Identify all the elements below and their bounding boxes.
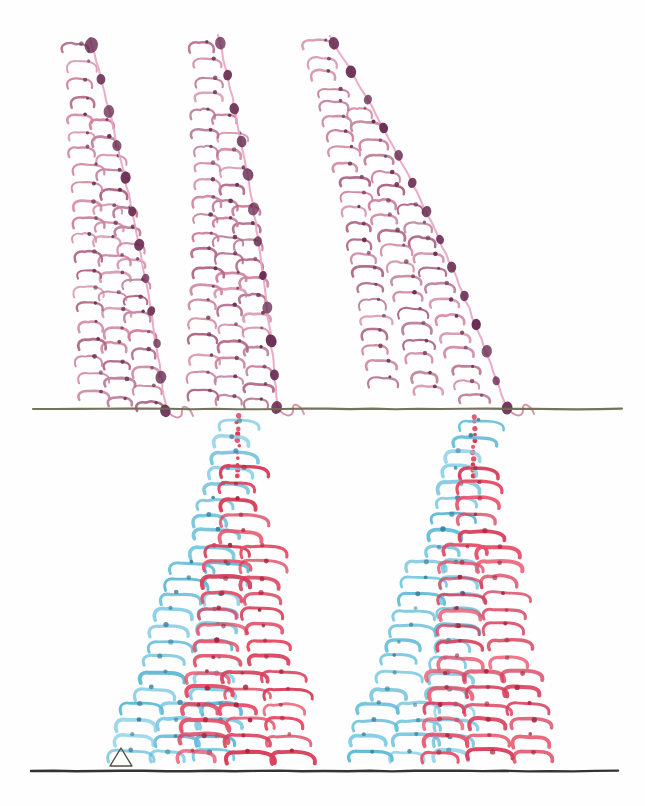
fan-branchlet-dot xyxy=(128,748,133,753)
branchlet-dot xyxy=(350,145,353,148)
stem-node-dot xyxy=(472,319,481,330)
shoot-branchlet xyxy=(311,70,335,81)
fan-branchlet-blue xyxy=(204,484,248,494)
shoot-branchlet xyxy=(75,356,102,367)
branchlet-dot xyxy=(374,283,377,286)
branchlet-dot xyxy=(394,182,399,187)
aerial-shoot xyxy=(62,36,193,418)
branchlet-dot xyxy=(207,298,210,301)
shoot-branchlet xyxy=(333,163,357,172)
fan-branchlet-red xyxy=(483,609,525,619)
branchlet-dot xyxy=(125,377,130,382)
fan-branchlet-dot xyxy=(163,669,167,673)
fan-branchlet-red xyxy=(481,575,517,587)
fan-branchlet-red xyxy=(504,686,539,696)
branchlet-dot xyxy=(460,331,464,335)
fan-branchlet-red xyxy=(489,640,533,650)
shoot-branchlet xyxy=(239,294,266,303)
fan-branchlet-dot xyxy=(486,685,490,689)
shoot-branchlet xyxy=(129,330,156,340)
shoot-branchlet xyxy=(124,296,147,305)
fan-branchlet-dot xyxy=(482,528,487,533)
branchlet-dot xyxy=(377,298,380,301)
fan-branchlet-dot xyxy=(473,466,477,470)
shoot-branchlet xyxy=(387,261,414,272)
fan-axis-dot xyxy=(236,456,240,460)
branchlet-dot xyxy=(206,315,210,319)
branchlet-dot xyxy=(86,97,89,100)
shoot-branchlet xyxy=(371,214,397,223)
shoot-branchlet xyxy=(69,132,95,140)
fan-branchlet-blue xyxy=(143,655,184,665)
branchlet-dot xyxy=(94,301,97,304)
fan-branchlet-dot xyxy=(187,575,192,580)
shoot-branchlet xyxy=(378,185,404,195)
fan-branchlet-dot xyxy=(240,671,244,675)
fan-branchlet-blue xyxy=(393,611,435,620)
shoot-branchlet xyxy=(244,399,268,408)
fan-branchlet-dot xyxy=(443,671,447,675)
fan-branchlet-red xyxy=(224,735,270,747)
stem-node-dot xyxy=(214,36,226,50)
fan-branchlet-dot xyxy=(177,700,182,705)
shoot-branchlet xyxy=(347,222,371,231)
branchlet-dot xyxy=(384,155,387,158)
branchlet-dot xyxy=(93,285,98,290)
branchlet-dot xyxy=(214,266,218,270)
fan-branchlet-blue xyxy=(459,421,503,431)
fan-branchlet-blue xyxy=(350,735,386,745)
fan-branchlet-dot xyxy=(264,559,269,564)
branchlet-dot xyxy=(339,99,343,103)
fan-branchlet-dot xyxy=(214,637,219,642)
shoot-branchlet xyxy=(352,266,383,276)
fan-branchlet-dot xyxy=(190,560,194,564)
branchlet-dot xyxy=(236,287,239,290)
shoot-branchlet xyxy=(72,182,102,192)
fan-branchlet-dot xyxy=(243,685,248,690)
stem-node-dot xyxy=(327,36,340,51)
fan-branchlet-dot xyxy=(174,590,179,595)
shoot-branchlet xyxy=(190,109,214,120)
root-fan xyxy=(349,414,553,763)
branchlet-dot xyxy=(433,384,437,388)
fan-branchlet-dot xyxy=(490,749,495,754)
fan-branchlet-blue xyxy=(390,625,436,637)
branchlet-dot xyxy=(213,76,217,80)
branchlet-dot xyxy=(213,90,217,94)
shoot-branchlet xyxy=(394,292,423,301)
shoot-branchlet xyxy=(78,391,109,400)
fan-branchlet-dot xyxy=(414,606,418,610)
shoot-branchlet xyxy=(67,115,92,123)
fan-branchlet-blue xyxy=(376,671,422,682)
fan-axis-dot xyxy=(471,445,475,449)
branchlet-dot xyxy=(96,337,100,341)
shoot-branchlet xyxy=(425,283,455,293)
fan-branchlet-dot xyxy=(438,702,443,707)
branchlet-dot xyxy=(120,253,124,257)
fan-branchlet-red xyxy=(248,641,290,650)
fan-axis-dot xyxy=(473,433,477,437)
shoot-branchlet xyxy=(217,305,241,316)
shoot-branchlet xyxy=(104,361,130,369)
shoot-branchlet xyxy=(328,146,360,156)
branchlet-dot xyxy=(387,359,391,363)
fan-branchlet-dot xyxy=(455,606,459,610)
fan-branchlet-blue xyxy=(116,720,156,732)
shoot-branchlet xyxy=(193,59,221,68)
stem-node-dot xyxy=(222,69,233,81)
upper-shoots-layer xyxy=(62,35,534,418)
branchlet-dot xyxy=(150,366,154,370)
baseline xyxy=(31,771,618,772)
root-fan xyxy=(108,413,315,764)
branchlet-dot xyxy=(251,221,255,225)
fan-branchlet-blue xyxy=(386,640,420,651)
fan-branchlet-dot xyxy=(487,733,491,737)
fan-branchlet-red xyxy=(483,623,523,635)
fan-branchlet-dot xyxy=(362,732,366,736)
branchlet-dot xyxy=(228,199,233,204)
fan-branchlet-red xyxy=(271,752,315,764)
shoot-branchlet xyxy=(191,129,218,138)
branchlet-dot xyxy=(411,274,415,278)
fan-branchlet-dot xyxy=(504,638,509,643)
fan-branchlet-red xyxy=(438,657,483,669)
